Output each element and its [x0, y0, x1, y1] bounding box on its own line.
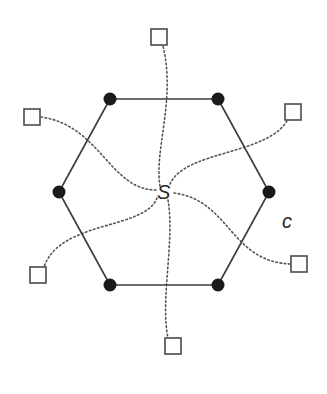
spoke-to-t-upper-left [41, 117, 156, 190]
v-bottom-right-dot [212, 279, 225, 292]
center-label-s: S [157, 181, 171, 203]
edge-v-bottom-left-v-left [59, 192, 110, 285]
spoke-to-t-upper-right [170, 119, 288, 184]
t-upper-right-square [285, 104, 301, 120]
v-top-right-dot [212, 93, 225, 106]
edge-v-top-right-v-right [218, 99, 269, 192]
edge-v-left-v-top-left [59, 99, 110, 192]
v-left-dot [53, 186, 66, 199]
t-upper-left-square [24, 109, 40, 125]
v-bottom-left-dot [104, 279, 117, 292]
spoke-to-t-bottom [166, 200, 170, 338]
v-right-dot [263, 186, 276, 199]
t-lower-left-square [30, 267, 46, 283]
spoke-to-t-top [159, 46, 167, 186]
region-label-c: c [282, 210, 292, 232]
t-lower-right-square [291, 256, 307, 272]
v-top-left-dot [104, 93, 117, 106]
t-bottom-square [165, 338, 181, 354]
spoke-to-t-lower-left [44, 198, 157, 267]
t-top-square [151, 29, 167, 45]
edge-v-right-v-bottom-right [218, 192, 269, 285]
hexagon-spoke-diagram: S c [0, 0, 327, 394]
spoke-to-t-lower-right [174, 193, 291, 264]
